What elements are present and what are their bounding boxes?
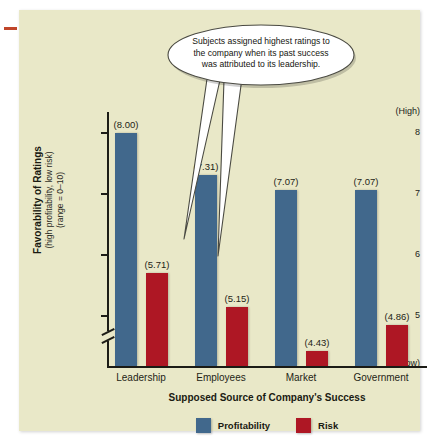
- y-axis-high-label: (High): [376, 106, 420, 116]
- y-tick-7: [101, 193, 109, 195]
- bar-value-label-government-risk: (4.86): [370, 311, 424, 322]
- category-label-government: Government: [331, 372, 429, 383]
- page-root: 8765 (High) (Low) (8.00)(5.71)(7.31)(5.1…: [0, 0, 429, 448]
- chart-legend: ProfitabilityRisk: [107, 418, 427, 433]
- y-tick-6: [101, 254, 109, 256]
- bar-government-risk: [386, 325, 408, 366]
- legend-swatch-risk: [296, 418, 311, 433]
- legend-item-risk: Risk: [296, 418, 338, 433]
- plot-area: 8765 (High) (Low) (8.00)(5.71)(7.31)(5.1…: [19, 10, 420, 431]
- annotation-callout: Subjects assigned highest ratings to the…: [162, 24, 360, 86]
- y-tick-label-8: 8: [398, 127, 420, 137]
- callout-line-1: Subjects assigned highest ratings to: [192, 36, 330, 46]
- bar-leadership-profitability: [115, 133, 137, 366]
- figure-panel: 8765 (High) (Low) (8.00)(5.71)(7.31)(5.1…: [19, 10, 420, 431]
- bar-fill: [115, 133, 137, 366]
- y-axis-title: Favorability of Ratings (high profitabil…: [32, 105, 72, 295]
- y-axis-title-sub-1: (high profitability, low risk): [44, 105, 55, 295]
- annotation-callout-text: Subjects assigned highest ratings to the…: [176, 36, 346, 71]
- legend-label-profitability: Profitability: [218, 420, 270, 431]
- legend-item-profitability: Profitability: [196, 418, 270, 433]
- callout-line-2: the company when its past success: [193, 48, 328, 58]
- y-tick-5: [101, 315, 109, 317]
- bar-value-label-leadership-profitability: (8.00): [99, 119, 153, 130]
- x-axis-title: Supposed Source of Company's Success: [107, 392, 427, 403]
- legend-label-risk: Risk: [318, 420, 338, 431]
- y-axis-title-main: Favorability of Ratings: [32, 105, 44, 295]
- page-margin-mark: [4, 27, 17, 30]
- y-axis-break-icon: [101, 326, 115, 346]
- y-tick-label-7: 7: [398, 188, 420, 198]
- y-tick-label-6: 6: [398, 249, 420, 259]
- callout-line-3: was attributed to its leadership.: [202, 59, 320, 69]
- legend-swatch-profitability: [196, 418, 211, 433]
- y-axis-title-sub-2: (range = 0–10): [55, 105, 66, 295]
- y-tick-8: [101, 132, 109, 134]
- bar-fill: [386, 325, 408, 366]
